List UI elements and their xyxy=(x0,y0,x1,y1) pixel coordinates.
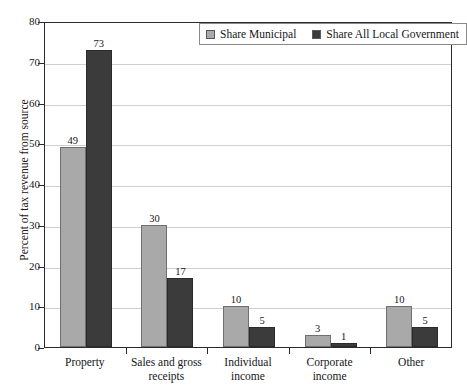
bar-value-label: 1 xyxy=(323,332,365,343)
y-axis-tick-label: 0 xyxy=(0,342,40,353)
chart-legend: Share MunicipalShare All Local Governmen… xyxy=(199,23,467,45)
bar xyxy=(167,278,193,347)
bar-value-label: 17 xyxy=(159,267,201,278)
bar-value-label: 5 xyxy=(404,316,446,327)
y-axis-tick-mark xyxy=(38,348,44,349)
bar xyxy=(386,306,412,347)
y-axis-tick-label: 60 xyxy=(0,98,40,109)
bar xyxy=(249,327,275,347)
legend-swatch-icon xyxy=(312,30,321,39)
bar-value-label: 10 xyxy=(378,295,420,306)
y-axis-tick-label: 70 xyxy=(0,57,40,68)
legend-label: Share All Local Government xyxy=(326,28,459,40)
bar-value-label: 5 xyxy=(241,316,283,327)
y-axis-tick-label: 50 xyxy=(0,138,40,149)
bar-value-label: 30 xyxy=(133,214,175,225)
bar xyxy=(60,147,86,347)
bar xyxy=(223,306,249,347)
bar xyxy=(141,225,167,347)
x-axis-tick-label: income xyxy=(275,370,385,384)
plot-area: 4973301710531105 xyxy=(44,22,452,348)
y-axis-tick-label: 10 xyxy=(0,301,40,312)
x-axis-tick-mark xyxy=(207,348,208,354)
x-axis-tick-mark xyxy=(126,348,127,354)
bar xyxy=(412,327,438,347)
legend-entry: Share Municipal xyxy=(206,28,296,40)
legend-label: Share Municipal xyxy=(220,28,296,40)
y-axis-tick-label: 40 xyxy=(0,179,40,190)
y-axis-tick-label: 20 xyxy=(0,261,40,272)
legend-swatch-icon xyxy=(206,30,215,39)
bar-value-label: 73 xyxy=(78,39,120,50)
bar xyxy=(86,50,112,347)
x-axis-tick-label: Other xyxy=(356,356,466,370)
y-axis-tick-label: 30 xyxy=(0,220,40,231)
x-axis-tick-mark xyxy=(289,348,290,354)
bar xyxy=(331,343,357,347)
bar-value-label: 10 xyxy=(215,295,257,306)
y-axis-tick-label: 80 xyxy=(0,16,40,27)
x-axis-label-group: Other xyxy=(356,356,466,370)
legend-entry: Share All Local Government xyxy=(312,28,459,40)
x-axis-tick-mark xyxy=(370,348,371,354)
